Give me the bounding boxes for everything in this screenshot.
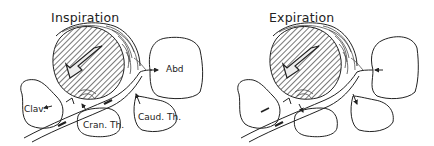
caudal-thoracic-air-sac (351, 96, 393, 132)
lung (53, 26, 124, 99)
clavicular-air-sac (238, 80, 280, 129)
inspiration-panel: Inspiration Abd (0, 0, 217, 146)
expiration-diagram (217, 0, 434, 146)
expiration-panel: Expiration (217, 0, 434, 146)
abdominal-air-sac (371, 37, 418, 99)
label-clav: Clav. (24, 104, 46, 114)
label-caud-th: Caud. Th. (138, 112, 181, 122)
lung (270, 26, 341, 99)
flow-arrow-cran (82, 104, 86, 110)
label-cran-th: Cran. Th. (83, 120, 124, 130)
flow-mark-bronchus-2 (104, 100, 112, 104)
label-abd: Abd (166, 64, 184, 74)
